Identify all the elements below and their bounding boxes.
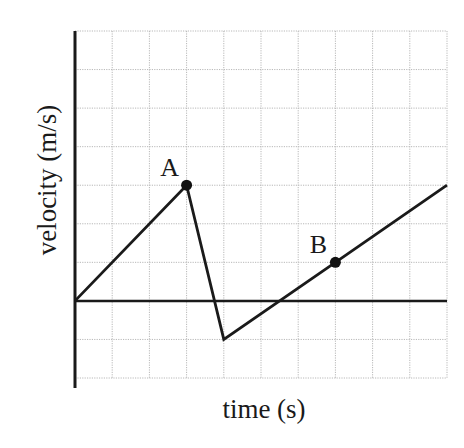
point-b-marker <box>330 257 341 268</box>
annotated-points: AB <box>160 153 341 268</box>
point-a-label: A <box>160 153 179 182</box>
point-a-marker <box>181 180 192 191</box>
velocity-time-chart: AB velocity (m/s) time (s) <box>0 0 464 448</box>
grid <box>75 31 447 378</box>
y-axis-label: velocity (m/s) <box>32 105 62 256</box>
x-axis-label: time (s) <box>222 394 305 424</box>
point-b-label: B <box>310 230 327 259</box>
